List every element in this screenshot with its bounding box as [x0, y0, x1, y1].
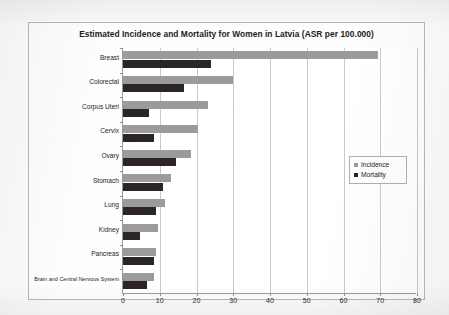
bar-mortality — [123, 257, 154, 265]
bar-incidence — [123, 101, 208, 109]
x-tick-label-60: 60 — [340, 297, 348, 304]
x-tick-label-40: 40 — [266, 297, 274, 304]
bar-incidence — [123, 224, 158, 232]
gridline-80 — [417, 48, 418, 293]
y-tick — [120, 196, 123, 197]
bar-mortality — [123, 281, 147, 289]
x-tick-label-20: 20 — [193, 297, 201, 304]
y-tick — [120, 73, 123, 74]
y-tick — [120, 269, 123, 270]
bar-incidence — [123, 273, 154, 281]
x-tick-label-70: 70 — [376, 297, 384, 304]
bar-row: Breast — [123, 48, 416, 73]
bar-row: Brain and Central Nervous System — [123, 269, 416, 294]
bar-incidence — [123, 51, 378, 59]
bar-mortality — [123, 84, 184, 92]
category-label: Stomach — [93, 177, 119, 184]
bar-incidence — [123, 76, 233, 84]
chart-title: Estimated Incidence and Mortality for Wo… — [29, 29, 424, 39]
y-tick — [120, 146, 123, 147]
bar-mortality — [123, 109, 149, 117]
bar-row: Cervix — [123, 122, 416, 147]
bar-row: Kidney — [123, 220, 416, 245]
bar-row: Pancreas — [123, 245, 416, 270]
bar-incidence — [123, 199, 165, 207]
y-tick — [120, 245, 123, 246]
category-label: Kidney — [99, 226, 119, 233]
y-tick — [120, 171, 123, 172]
x-tick-label-30: 30 — [229, 297, 237, 304]
legend-label: Incidence — [361, 160, 389, 170]
bar-row: Colorectal — [123, 73, 416, 98]
chart-frame: Estimated Incidence and Mortality for Wo… — [28, 22, 425, 300]
category-label: Ovary — [101, 152, 119, 159]
bar-mortality — [123, 134, 154, 142]
category-label: Brain and Central Nervous System — [34, 276, 119, 282]
chart-legend: IncidenceMortality — [349, 156, 407, 184]
y-tick — [120, 122, 123, 123]
bar-incidence — [123, 125, 198, 133]
category-label: Breast — [100, 54, 119, 61]
category-label: Cervix — [100, 127, 119, 134]
scanned-page: Estimated Incidence and Mortality for Wo… — [0, 0, 449, 315]
legend-swatch-mortality-icon — [354, 173, 358, 177]
category-label: Lung — [104, 201, 119, 208]
category-label: Pancreas — [91, 250, 119, 257]
bar-incidence — [123, 174, 171, 182]
bar-mortality — [123, 232, 140, 240]
legend-item-mortality: Mortality — [354, 170, 402, 180]
legend-swatch-incidence-icon — [354, 163, 358, 167]
y-tick — [120, 48, 123, 49]
x-tick-label-50: 50 — [303, 297, 311, 304]
x-tick-80 — [417, 293, 418, 296]
bar-mortality — [123, 60, 211, 68]
y-tick — [120, 97, 123, 98]
bar-incidence — [123, 248, 156, 256]
bar-incidence — [123, 150, 191, 158]
bar-mortality — [123, 207, 156, 215]
x-tick-label-0: 0 — [121, 297, 125, 304]
category-label: Corpus Uteri — [82, 103, 119, 110]
bar-mortality — [123, 183, 163, 191]
legend-item-incidence: Incidence — [354, 160, 402, 170]
bar-row: Lung — [123, 196, 416, 221]
bar-mortality — [123, 158, 176, 166]
bar-row: Corpus Uteri — [123, 97, 416, 122]
legend-label: Mortality — [361, 170, 386, 180]
y-tick — [120, 220, 123, 221]
x-tick-label-80: 80 — [413, 297, 421, 304]
x-tick-label-10: 10 — [156, 297, 164, 304]
category-label: Colorectal — [89, 78, 119, 85]
